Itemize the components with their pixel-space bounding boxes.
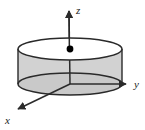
center-point-marker: [67, 46, 74, 53]
z-axis-label: z: [75, 4, 81, 16]
y-axis-label: y: [133, 78, 139, 90]
cylinder-coordinate-figure: z y x: [0, 0, 145, 130]
x-axis-label: x: [4, 114, 10, 126]
cylinder-top: [18, 11, 122, 60]
figure-canvas: z y x: [0, 0, 145, 130]
